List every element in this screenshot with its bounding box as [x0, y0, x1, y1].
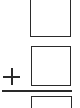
addend-2-box[interactable]: [31, 46, 71, 86]
sum-line: [2, 90, 72, 92]
plus-sign-icon: +: [3, 68, 20, 85]
sum-box[interactable]: [31, 96, 72, 108]
addend-2-value: [32, 47, 33, 48]
sum-value: [32, 97, 33, 98]
addend-1-box[interactable]: [30, 0, 71, 37]
